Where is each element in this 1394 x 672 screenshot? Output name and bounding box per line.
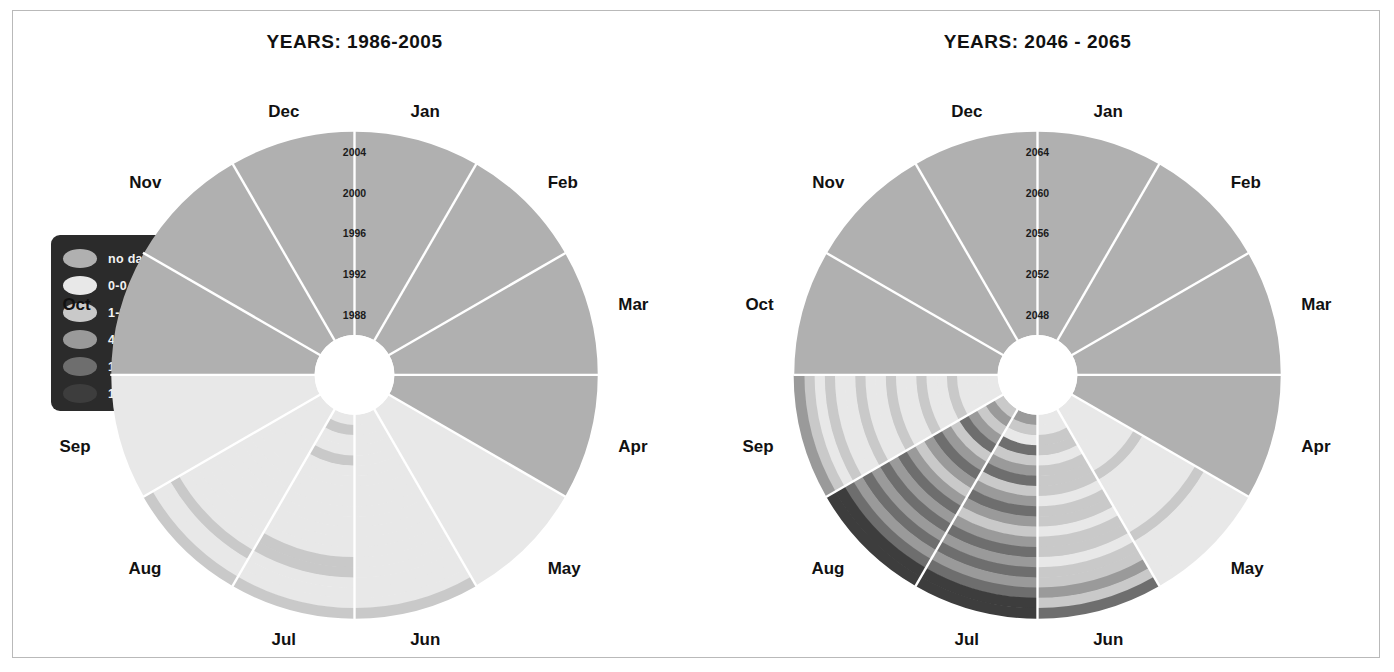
polar-chart-panel-right: YEARS: 2046 - 2065 20482052205620602064J… (696, 11, 1379, 657)
month-label-jul: Jul (955, 630, 979, 649)
month-label-jul: Jul (272, 630, 296, 649)
radial-tick-label: 2064 (1026, 147, 1049, 158)
radial-tick-label: 2004 (343, 147, 366, 158)
month-label-apr: Apr (618, 437, 648, 456)
month-label-mar: Mar (1301, 295, 1332, 314)
radial-tick-label: 2056 (1026, 228, 1049, 239)
figure-frame: no data0-01-34-910-1415-25 YEARS: 1986-2… (12, 10, 1380, 658)
month-label-aug: Aug (811, 559, 844, 578)
month-label-jan: Jan (411, 102, 440, 121)
month-label-dec: Dec (951, 102, 982, 121)
month-label-jan: Jan (1094, 102, 1123, 121)
month-label-sep: Sep (743, 437, 774, 456)
month-label-dec: Dec (268, 102, 299, 121)
month-label-feb: Feb (548, 173, 578, 192)
month-label-oct: Oct (62, 295, 91, 314)
month-label-may: May (1231, 559, 1265, 578)
month-label-mar: Mar (618, 295, 649, 314)
radial-tick-label: 1992 (343, 269, 366, 280)
radial-tick-label: 2060 (1026, 188, 1049, 199)
month-label-sep: Sep (60, 437, 91, 456)
radial-tick-label: 2000 (343, 188, 366, 199)
month-label-feb: Feb (1231, 173, 1261, 192)
month-label-jun: Jun (410, 630, 440, 649)
radial-tick-label: 2052 (1026, 269, 1049, 280)
radial-tick-label: 1988 (343, 310, 366, 321)
polar-chart-panel-left: YEARS: 1986-2005 19881992199620002004Jan… (13, 11, 696, 657)
month-label-apr: Apr (1301, 437, 1331, 456)
polar-chart-right: 20482052205620602064JanFebMarAprMayJunJu… (696, 11, 1379, 657)
month-label-aug: Aug (128, 559, 161, 578)
radial-tick-label: 1996 (343, 228, 366, 239)
polar-chart-left: 19881992199620002004JanFebMarAprMayJunJu… (13, 11, 696, 657)
month-label-may: May (548, 559, 582, 578)
month-label-nov: Nov (812, 173, 845, 192)
center-hole (315, 335, 395, 415)
center-hole (998, 335, 1078, 415)
month-label-nov: Nov (129, 173, 162, 192)
month-label-jun: Jun (1093, 630, 1123, 649)
radial-tick-label: 2048 (1026, 310, 1049, 321)
month-label-oct: Oct (745, 295, 774, 314)
